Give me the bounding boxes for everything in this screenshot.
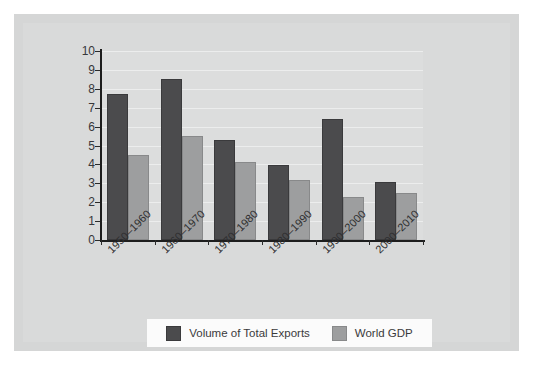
x-axis-tick <box>208 240 209 245</box>
y-axis-tick <box>95 108 100 109</box>
y-axis-tick-label: 10 <box>61 45 95 57</box>
y-axis-tick <box>95 221 100 222</box>
light-swatch-icon <box>332 326 347 341</box>
y-axis-tick-label: 7 <box>61 102 95 114</box>
y-axis-tick-label: 2 <box>61 196 95 208</box>
y-axis-tick-label: 0 <box>61 234 95 246</box>
plot-wrapper: 109876543210 1950–19601960–19701970–1980… <box>23 23 510 342</box>
x-axis-tick <box>369 240 370 245</box>
bar-exports <box>322 119 343 240</box>
y-axis-tick-label: 3 <box>61 177 95 189</box>
chart-page: 109876543210 1950–19601960–19701970–1980… <box>0 0 535 367</box>
y-axis-tick <box>95 146 100 147</box>
y-axis-tick-label: 8 <box>61 83 95 95</box>
legend-label: Volume of Total Exports <box>189 327 310 339</box>
y-axis-tick <box>95 70 100 71</box>
figure-panel: 109876543210 1950–19601960–19701970–1980… <box>14 14 519 351</box>
y-axis-tick <box>95 127 100 128</box>
y-axis-tick-label: 5 <box>61 140 95 152</box>
bar-exports <box>161 79 182 240</box>
y-axis-tick-label: 9 <box>61 64 95 76</box>
y-axis-tick-label: 1 <box>61 215 95 227</box>
y-axis-tick <box>95 164 100 165</box>
x-axis-tick <box>155 240 156 245</box>
x-axis-tick <box>101 240 102 245</box>
x-axis-tick <box>423 240 424 245</box>
y-axis-tick <box>95 89 100 90</box>
x-axis-tick <box>262 240 263 245</box>
figure-inner-panel: 109876543210 1950–19601960–19701970–1980… <box>23 23 510 342</box>
y-axis-tick-label: 6 <box>61 121 95 133</box>
x-axis-tick <box>316 240 317 245</box>
y-axis-tick <box>95 183 100 184</box>
bar-exports <box>214 140 235 240</box>
y-axis-tick-labels: 109876543210 <box>53 23 95 273</box>
legend-item-world-gdp: World GDP <box>332 326 413 341</box>
legend-item-volume-of-total-exports: Volume of Total Exports <box>166 326 310 341</box>
y-axis-tick <box>95 240 100 241</box>
chart-legend: Volume of Total Exports World GDP <box>147 319 432 347</box>
dark-swatch-icon <box>166 326 181 341</box>
y-axis-tick-label: 4 <box>61 158 95 170</box>
y-axis-tick <box>95 202 100 203</box>
bar-exports <box>107 94 128 240</box>
legend-label: World GDP <box>355 327 413 339</box>
y-axis-tick <box>95 51 100 52</box>
